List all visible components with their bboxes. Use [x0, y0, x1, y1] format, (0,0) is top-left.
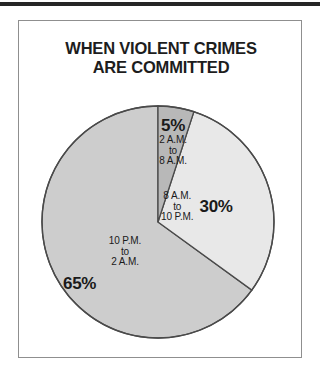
- range-from-night-early: 2 A.M.: [138, 135, 208, 146]
- figure-frame: WHEN VIOLENT CRIMES ARE COMMITTED 5% 2 A…: [18, 20, 302, 358]
- pie-label-day: 8 A.M. to 10 P.M. 30%: [161, 191, 277, 223]
- pie-percent-day: 30%: [199, 198, 232, 216]
- pie-percent-evening: 65%: [57, 275, 167, 293]
- pie-label-night-early: 5% 2 A.M. to 8 A.M.: [138, 117, 208, 167]
- pie-range-evening: 10 P.M. to 2 A.M.: [83, 236, 167, 268]
- range-from-day: 8 A.M.: [161, 191, 193, 202]
- range-from-evening: 10 P.M.: [83, 236, 167, 247]
- pie-chart: 5% 2 A.M. to 8 A.M. 8 A.M. to 10 P.M. 30…: [19, 21, 303, 359]
- range-until-night-early: 8 A.M.: [138, 156, 208, 167]
- pie-percent-night-early: 5%: [138, 117, 208, 135]
- pie-range-night-early: 2 A.M. to 8 A.M.: [138, 135, 208, 167]
- pie-range-day: 8 A.M. to 10 P.M.: [161, 191, 193, 223]
- pie-label-evening: 10 P.M. to 2 A.M. 65%: [57, 236, 167, 293]
- range-until-day: 10 P.M.: [161, 212, 193, 223]
- range-until-evening: 2 A.M.: [83, 257, 167, 268]
- page-top-rule: [0, 2, 320, 6]
